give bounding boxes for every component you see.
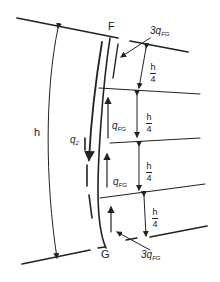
quarter-height-3: h4 xyxy=(144,162,154,183)
bottom-3qfg-label: 3qFG xyxy=(141,250,160,261)
diagram-canvas xyxy=(0,0,220,282)
web-line-1 xyxy=(99,88,200,94)
web-line-2 xyxy=(110,138,200,143)
top-3qfg-label: 3qFG xyxy=(150,26,169,37)
top-right-boundary-line xyxy=(130,41,188,52)
stringer-fg xyxy=(98,38,110,248)
node-g-label: G xyxy=(101,249,110,260)
quarter-height-2: h4 xyxy=(144,113,154,134)
quarter-height-1: h4 xyxy=(148,63,158,84)
height-label: h xyxy=(34,127,40,138)
qfg-upper-label: qFG xyxy=(112,121,126,132)
top-boundary-line xyxy=(17,18,118,38)
node-f-label: F xyxy=(108,21,115,32)
height-dimension xyxy=(48,28,58,258)
q2-label: q2 xyxy=(70,135,79,146)
quarter-height-4: h4 xyxy=(150,208,160,229)
qfg-lower-label: qFG xyxy=(113,177,127,188)
